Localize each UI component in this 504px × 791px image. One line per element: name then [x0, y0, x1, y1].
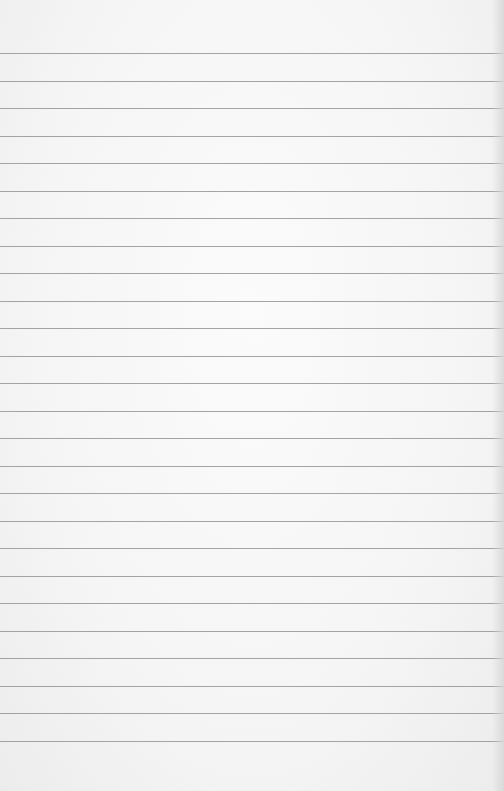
ruled-line — [0, 603, 504, 604]
ruled-line — [0, 81, 504, 82]
ruled-line — [0, 438, 504, 439]
ruled-line — [0, 576, 504, 577]
ruled-line — [0, 713, 504, 714]
ruled-line — [0, 218, 504, 219]
lined-paper — [0, 0, 504, 791]
ruled-line — [0, 191, 504, 192]
ruled-line — [0, 301, 504, 302]
ruled-line — [0, 328, 504, 329]
ruled-line — [0, 411, 504, 412]
ruled-line — [0, 631, 504, 632]
ruled-line — [0, 356, 504, 357]
ruled-line — [0, 741, 504, 742]
ruled-line — [0, 53, 504, 54]
ruled-line — [0, 246, 504, 247]
ruled-line — [0, 521, 504, 522]
ruled-line — [0, 136, 504, 137]
ruled-line — [0, 163, 504, 164]
ruled-line — [0, 466, 504, 467]
ruled-line — [0, 383, 504, 384]
paper-edge-shadow — [492, 0, 504, 791]
ruled-line — [0, 273, 504, 274]
ruled-line — [0, 686, 504, 687]
ruled-line — [0, 493, 504, 494]
ruled-line — [0, 548, 504, 549]
ruled-line — [0, 108, 504, 109]
ruled-line — [0, 658, 504, 659]
